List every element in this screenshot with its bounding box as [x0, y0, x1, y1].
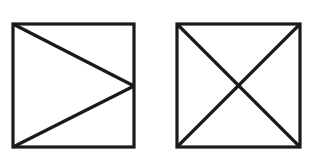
figure-canvas: [0, 0, 324, 158]
figure-svg: [0, 0, 324, 158]
right-square: [177, 24, 300, 147]
left-square: [13, 24, 134, 147]
left-square-outline: [13, 24, 134, 147]
